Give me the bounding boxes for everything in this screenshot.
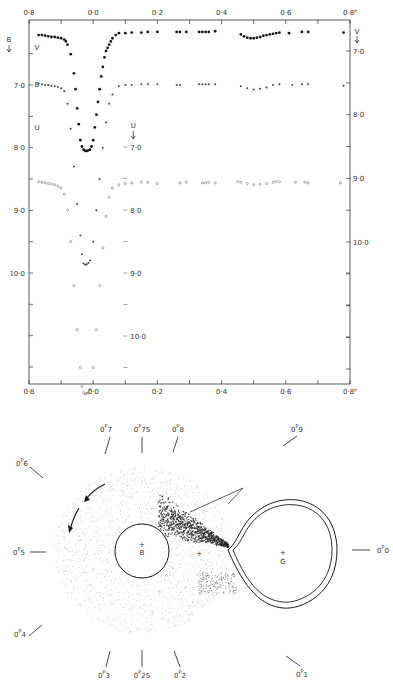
speckle [144,501,145,502]
speckle [153,477,154,478]
speckle [175,626,176,627]
speckle [118,572,119,573]
speckle [103,499,104,500]
speckle [186,575,187,576]
data-point-v [77,123,80,126]
stream-particle [178,526,179,527]
light-curve-chart: 0·80·80·00·00·20·20·40·40·60·60·8ᴾ0·8ᴾ7·… [7,9,369,396]
speckle [88,599,89,600]
stream-particle [166,525,167,526]
speckle [165,618,166,619]
speckle [97,600,98,601]
stream-particle [201,533,202,534]
stream-particle [165,529,166,530]
stream-particle [171,534,172,535]
speckle [197,603,198,604]
stream-particle [207,531,208,532]
stream-particle [184,516,185,517]
hotspot-particle [204,578,205,579]
speckle [100,592,101,593]
stream-particle [158,522,159,523]
data-point-u [60,187,62,189]
speckle [118,528,119,529]
stream-particle [191,537,192,538]
data-point-b [307,83,309,85]
speckle [188,606,189,607]
speckle [125,628,126,629]
speckle [126,519,127,520]
stream-particle [221,539,222,540]
speckle [152,507,153,508]
stream-particle [187,527,188,528]
speckle [206,599,207,600]
stream-particle [181,536,182,537]
speckle [149,505,150,506]
speckle [213,595,214,596]
speckle [143,610,144,611]
stream-particle [197,531,198,532]
stream-particle [168,499,169,500]
speckle [125,614,126,615]
hotspot-particle [222,582,223,583]
speckle [103,621,104,622]
primary-star-label: B [140,549,145,557]
stream-particle [162,517,163,518]
stream-particle [186,538,187,539]
data-point-v [69,53,72,56]
hotspot-particle [228,583,229,584]
stream-particle [180,524,181,525]
speckle [142,520,143,521]
hotspot-particle [211,572,212,573]
speckle [86,565,87,566]
speckle [104,477,105,478]
data-point-u [253,184,255,186]
speckle [172,588,173,589]
speckle [184,579,185,580]
speckle [169,582,170,583]
speckle [71,560,72,561]
speckle [79,567,80,568]
stream-particle [173,518,174,519]
speckle [80,540,81,541]
stream-particle [179,529,180,530]
speckle [107,500,108,501]
speckle [145,505,146,506]
speckle [68,559,69,560]
speckle [136,600,137,601]
speckle [171,566,172,567]
speckle [169,621,170,622]
speckle [189,562,190,563]
speckle [102,564,103,565]
speckle [145,610,146,611]
speckle [156,471,157,472]
speckle [100,492,101,493]
speckle [163,483,164,484]
speckle [147,585,148,586]
speckle [89,493,90,494]
speckle [167,598,168,599]
speckle [96,499,97,500]
speckle [122,607,123,608]
speckle [173,585,174,586]
hotspot-particle [233,576,234,577]
speckle [203,518,204,519]
speckle [95,558,96,559]
speckle [121,582,122,583]
hotspot-particle [208,590,209,591]
stream-particle [190,539,191,540]
speckle [90,597,91,598]
speckle [152,614,153,615]
speckle [137,629,138,630]
hotspot-particle [227,578,228,579]
speckle [174,490,175,491]
speckle [123,494,124,495]
rotation-arrow [86,484,105,499]
speckle [193,558,194,559]
speckle [179,614,180,615]
speckle [154,502,155,503]
speckle [228,541,229,542]
speckle [186,601,187,602]
speckle [91,584,92,585]
speckle [187,605,188,606]
speckle [171,494,172,495]
